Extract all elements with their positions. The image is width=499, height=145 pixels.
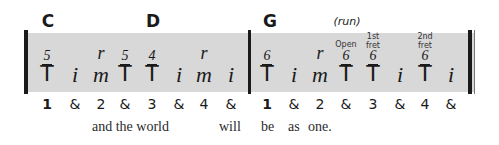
thumb-note: T (260, 62, 273, 86)
right-barline-thick (468, 30, 472, 94)
count-beat: 3 (148, 96, 157, 112)
count-beat: 4 (200, 96, 209, 112)
right-barline-thin (474, 30, 475, 94)
left-barline (24, 30, 28, 94)
thumb-note: T (40, 62, 53, 86)
chord-label-c: C (42, 11, 54, 31)
middle-finger-note: m (196, 63, 212, 87)
run-annotation: (run) (333, 15, 360, 28)
count-and: & (70, 96, 81, 112)
index-finger-note: i (72, 63, 78, 87)
count-and: & (120, 96, 131, 112)
count-beat: 4 (421, 96, 430, 112)
index-finger-note: i (397, 63, 403, 87)
count-beat: 2 (97, 96, 106, 112)
chord-label-d: D (146, 11, 160, 31)
count-beat: 3 (369, 96, 378, 112)
lyric-phrase: and the world (92, 119, 169, 135)
lyric-word: one. (308, 119, 332, 135)
count-and: & (341, 96, 352, 112)
count-and: & (226, 96, 237, 112)
thumb-note: T (118, 62, 131, 86)
chord-label-g: G (263, 11, 277, 31)
thumb-note: T (339, 62, 352, 86)
count-and: & (289, 96, 300, 112)
count-and: & (174, 96, 185, 112)
thumb-note: T (418, 62, 431, 86)
count-and: & (446, 96, 457, 112)
middle-barline (248, 30, 251, 94)
count-beat: 1 (42, 96, 52, 112)
thumb-note: T (366, 62, 379, 86)
lyric-word: as (288, 119, 300, 135)
middle-finger-note: m (93, 63, 109, 87)
rasgueado-mark: r (200, 44, 207, 62)
index-finger-note: i (176, 63, 182, 87)
middle-finger-note: m (312, 63, 328, 87)
rasgueado-mark: r (316, 44, 323, 62)
index-finger-note: i (448, 63, 454, 87)
count-beat: 1 (262, 96, 272, 112)
index-finger-note: i (291, 63, 297, 87)
lyric-word: will (219, 119, 241, 135)
thumb-note: T (145, 62, 158, 86)
count-beat: 2 (316, 96, 325, 112)
count-and: & (395, 96, 406, 112)
lyric-word: be (261, 119, 274, 135)
rasgueado-mark: r (97, 44, 104, 62)
index-finger-note: i (228, 63, 234, 87)
